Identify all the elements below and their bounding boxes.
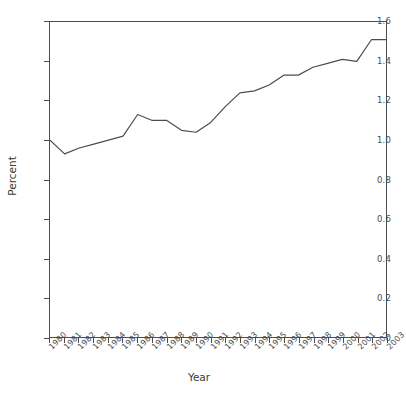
- data-series-line: [50, 40, 386, 154]
- y-tick-mark: [44, 259, 49, 260]
- y-tick-label: 0.4: [377, 254, 391, 264]
- y-tick-label: 1.2: [377, 95, 391, 105]
- y-tick-label: 1.6: [377, 16, 391, 26]
- y-tick-mark: [44, 140, 49, 141]
- y-axis-title: Percent: [6, 146, 18, 206]
- y-tick-label: 1.4: [377, 56, 391, 66]
- x-axis-title: Year: [0, 371, 398, 383]
- y-tick-mark: [44, 61, 49, 62]
- y-tick-mark: [44, 298, 49, 299]
- data-line-svg: [50, 22, 386, 337]
- y-tick-mark: [44, 180, 49, 181]
- plot-area: [49, 21, 387, 338]
- y-tick-mark: [44, 100, 49, 101]
- y-tick-label: 0.2: [377, 293, 391, 303]
- y-tick-mark: [44, 21, 49, 22]
- y-tick-label: 0.6: [377, 214, 391, 224]
- y-tick-label: 0.8: [377, 175, 391, 185]
- y-tick-label: 1.0: [377, 135, 391, 145]
- y-tick-mark: [44, 219, 49, 220]
